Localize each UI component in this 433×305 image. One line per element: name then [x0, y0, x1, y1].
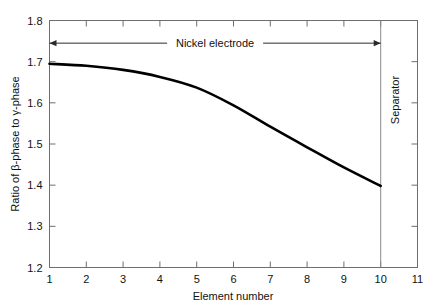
- y-tick-label: 1.3: [27, 220, 42, 232]
- x-tick-label: 3: [120, 273, 126, 285]
- x-tick-label: 11: [412, 273, 423, 285]
- x-tick-label: 6: [230, 273, 236, 285]
- y-tick-label: 1.6: [27, 97, 42, 109]
- chart-figure: 1234567891011 1.21.31.41.51.61.71.8 Elem…: [0, 0, 433, 305]
- x-tick-label: 5: [194, 273, 200, 285]
- y-tick-label: 1.4: [27, 179, 42, 191]
- nickel-electrode-label: Nickel electrode: [176, 37, 254, 49]
- x-tick-label: 4: [157, 273, 163, 285]
- y-tick-label: 1.7: [27, 56, 42, 68]
- y-axis-title: Ratio of β-phase to γ-phase: [9, 76, 21, 211]
- x-tick-label: 1: [46, 273, 52, 285]
- x-tick-label: 8: [304, 273, 310, 285]
- x-tick-label: 9: [341, 273, 347, 285]
- y-tick-label: 1.2: [27, 262, 42, 274]
- x-tick-label: 10: [375, 273, 387, 285]
- y-tick-label: 1.5: [27, 138, 42, 150]
- x-axis-title: Element number: [193, 290, 274, 302]
- y-tick-label: 1.8: [27, 15, 42, 27]
- beta-gamma-phase-ratio-chart: 1234567891011 1.21.31.41.51.61.71.8 Elem…: [0, 0, 433, 305]
- x-tick-label: 2: [83, 273, 89, 285]
- x-tick-label: 7: [267, 273, 273, 285]
- separator-label: Separator: [389, 76, 401, 125]
